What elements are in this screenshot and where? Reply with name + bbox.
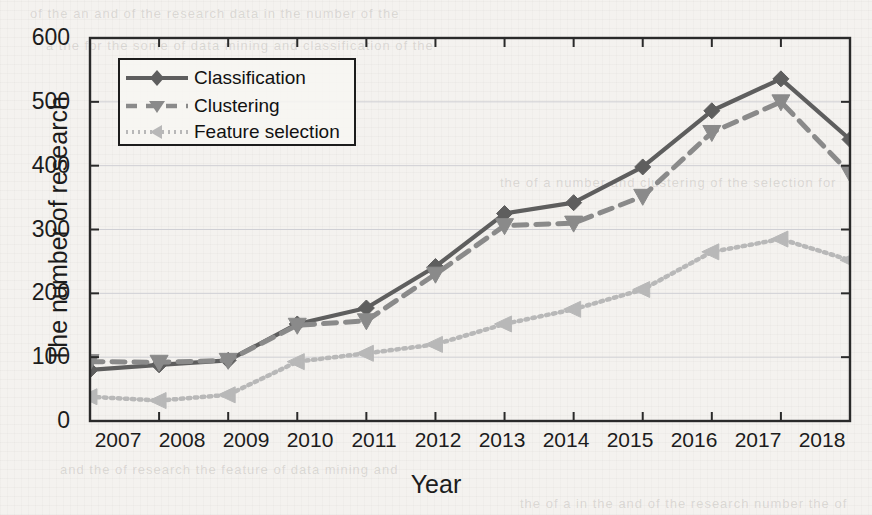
legend-sample-clustering: [120, 93, 194, 119]
chart-legend: Classification Clustering Feature select…: [118, 58, 356, 146]
legend-sample-classification: [120, 65, 194, 91]
legend-label-classification: Classification: [194, 67, 306, 89]
legend-entry-classification: Classification: [120, 63, 358, 92]
line-chart-figure: The number of research Year 0 100 200 30…: [0, 0, 872, 515]
legend-label-clustering: Clustering: [194, 95, 280, 117]
legend-sample-feature-selection: [120, 119, 194, 145]
legend-entry-clustering: Clustering: [120, 91, 358, 120]
legend-entry-feature-selection: Feature selection: [120, 117, 358, 146]
legend-label-feature-selection: Feature selection: [194, 121, 340, 143]
